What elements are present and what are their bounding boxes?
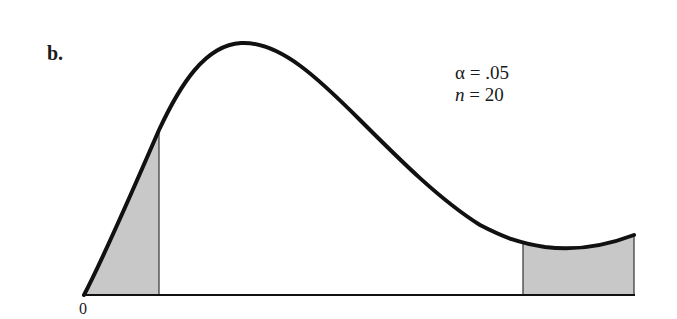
alpha-symbol: α bbox=[455, 62, 465, 83]
right-rejection-region bbox=[523, 235, 634, 295]
alpha-value: = .05 bbox=[465, 62, 509, 83]
n-symbol: n bbox=[455, 84, 465, 105]
x-tick-origin: 0 bbox=[79, 300, 87, 318]
panel-label: b. bbox=[47, 42, 63, 65]
n-annotation: n = 20 bbox=[455, 84, 504, 106]
chi-square-chart bbox=[0, 0, 677, 319]
n-value: = 20 bbox=[465, 84, 504, 105]
alpha-annotation: α = .05 bbox=[455, 62, 509, 84]
